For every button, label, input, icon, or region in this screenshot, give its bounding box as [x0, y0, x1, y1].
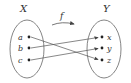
mapping-arrow-b-to-x: [31, 38, 98, 49]
function-label: f: [59, 11, 65, 21]
domain-element-b: b: [18, 44, 30, 53]
svg-text:b: b: [18, 44, 23, 53]
domain-label: X: [19, 3, 28, 14]
function-mapping-diagram: X Y f a b c x y z: [0, 0, 131, 83]
domain-element-c: c: [18, 56, 30, 65]
point-icon: [101, 36, 104, 39]
svg-text:z: z: [106, 56, 112, 65]
point-icon: [28, 47, 31, 50]
codomain-element-y: y: [101, 44, 112, 53]
codomain-element-x: x: [101, 33, 112, 42]
svg-text:c: c: [18, 56, 23, 65]
svg-text:x: x: [107, 33, 112, 42]
codomain-element-z: z: [101, 56, 112, 65]
codomain-set-ellipse: [87, 20, 121, 78]
svg-text:a: a: [18, 33, 23, 42]
svg-text:y: y: [106, 44, 112, 53]
codomain-label: Y: [103, 3, 111, 14]
domain-set-ellipse: [10, 20, 44, 78]
point-icon: [28, 36, 31, 39]
point-icon: [101, 59, 104, 62]
domain-element-a: a: [18, 33, 30, 42]
function-arrow-icon: [52, 23, 74, 25]
point-icon: [101, 47, 104, 50]
point-icon: [28, 59, 31, 62]
